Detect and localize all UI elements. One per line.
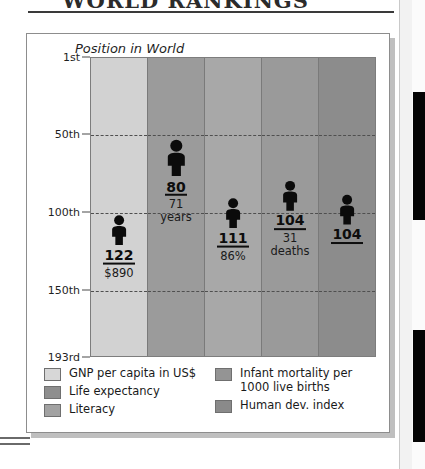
y-tick-mark	[82, 357, 90, 358]
person-icon	[223, 197, 243, 228]
legend-column-left: GNP per capita in US$Life expectancyLite…	[44, 367, 203, 425]
chart-column: 104	[319, 58, 375, 356]
gridline	[91, 213, 147, 214]
chart-column: 8071 years	[148, 58, 205, 356]
gridline	[319, 291, 375, 292]
legend-swatch	[44, 404, 61, 417]
legend-item[interactable]: GNP per capita in US$	[44, 367, 203, 381]
plot-area: 1st50th100th150th193rd 122$8908071 years…	[44, 57, 376, 357]
marker-sublabel: 71 years	[160, 198, 192, 224]
legend: GNP per capita in US$Life expectancyLite…	[44, 367, 374, 425]
marker-sublabel: 31 deaths	[270, 232, 309, 258]
page-edge-tab-lower	[413, 330, 425, 442]
person-icon	[280, 180, 300, 211]
gridline	[148, 135, 204, 136]
legend-item[interactable]: Life expectancy	[44, 385, 203, 399]
y-tick-mark	[82, 211, 90, 212]
chart-title: Position in World	[75, 41, 184, 56]
legend-column-right: Infant mortality per 1000 live birthsHum…	[203, 367, 374, 425]
page-edge-tab-upper	[413, 92, 425, 220]
chart-column: 10431 deaths	[262, 58, 319, 356]
gridline	[262, 291, 318, 292]
data-marker[interactable]: 11186%	[205, 197, 261, 262]
legend-swatch	[44, 368, 61, 381]
gridline	[91, 135, 147, 136]
marker-sublabel: $890	[104, 267, 133, 280]
data-marker[interactable]: 104	[319, 194, 375, 244]
legend-label: Human dev. index	[240, 399, 344, 413]
marker-rank: 122	[103, 248, 134, 265]
y-tick-mark	[82, 57, 90, 58]
y-tick-label: 50th	[55, 127, 80, 140]
left-rule-lower	[0, 443, 30, 445]
data-marker[interactable]: 122$890	[91, 215, 147, 280]
y-tick-label: 100th	[48, 205, 80, 218]
figure-panel: Position in World 1st50th100th150th193rd…	[26, 33, 390, 433]
y-tick-mark	[82, 133, 90, 134]
legend-label: Life expectancy	[69, 385, 160, 399]
page-title: WORLD RANKINGS	[62, 0, 362, 8]
gridline	[91, 291, 147, 292]
legend-item[interactable]: Literacy	[44, 403, 203, 417]
legend-swatch	[215, 400, 232, 413]
legend-label: Literacy	[69, 403, 115, 417]
gridline	[205, 291, 261, 292]
gridline	[319, 135, 375, 136]
legend-item[interactable]: Human dev. index	[215, 399, 374, 413]
legend-item[interactable]: Infant mortality per 1000 live births	[215, 367, 374, 395]
y-tick-label: 150th	[48, 283, 80, 296]
gridline	[205, 135, 261, 136]
left-rule-upper	[0, 437, 30, 439]
legend-swatch	[215, 368, 232, 381]
legend-label: Infant mortality per 1000 live births	[240, 367, 352, 395]
legend-label: GNP per capita in US$	[69, 367, 196, 381]
gridline	[148, 291, 204, 292]
person-icon	[164, 139, 189, 177]
marker-rank: 80	[165, 179, 186, 196]
marker-rank: 104	[331, 227, 362, 244]
y-axis: 1st50th100th150th193rd	[44, 57, 90, 357]
y-tick-label: 1st	[63, 51, 80, 64]
plot-columns: 122$8908071 years11186%10431 deaths104	[90, 57, 376, 357]
legend-swatch	[44, 386, 61, 399]
data-marker[interactable]: 10431 deaths	[262, 180, 318, 258]
marker-rank: 104	[274, 213, 305, 230]
marker-sublabel: 86%	[220, 249, 246, 262]
person-icon	[337, 194, 357, 225]
page-edge-strip	[399, 0, 413, 469]
marker-rank: 111	[217, 231, 248, 248]
chart-column: 11186%	[205, 58, 262, 356]
gridline	[262, 135, 318, 136]
data-marker[interactable]: 8071 years	[148, 139, 204, 224]
title-divider	[28, 11, 394, 13]
y-tick-mark	[82, 289, 90, 290]
y-tick-label: 193rd	[48, 351, 80, 364]
chart-column: 122$890	[91, 58, 148, 356]
person-icon	[109, 215, 129, 246]
